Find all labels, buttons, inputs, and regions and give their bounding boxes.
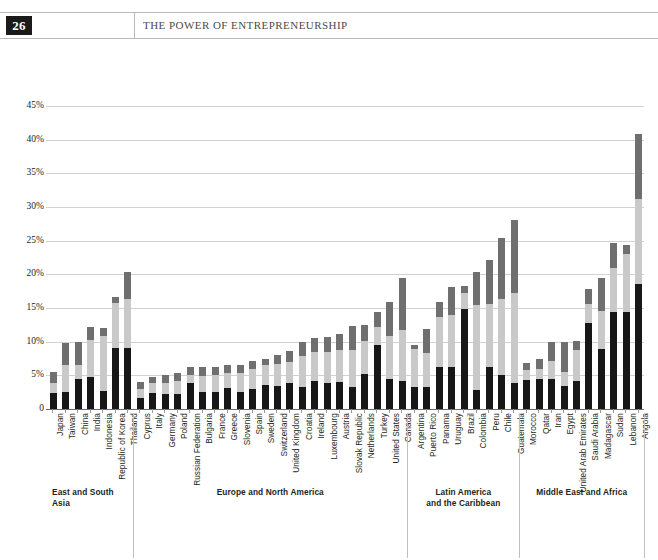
bar-segment: [149, 383, 156, 392]
bar-germany[interactable]: [162, 375, 169, 409]
bar-segment: [75, 342, 82, 365]
bar-segment: [436, 302, 443, 317]
bar-segment: [349, 350, 356, 387]
bar-indonesia[interactable]: [100, 328, 107, 409]
bar-argentina[interactable]: [411, 345, 418, 409]
bar-segment: [212, 392, 219, 409]
bar-brazil[interactable]: [461, 286, 468, 409]
x-axis-label: Saudi Arabia: [591, 413, 600, 461]
bar-italy[interactable]: [149, 377, 156, 409]
bar-segment: [62, 365, 69, 392]
bar-qatar[interactable]: [536, 359, 543, 410]
bar-segment: [473, 305, 480, 390]
bar-segment: [561, 342, 568, 372]
bar-taiwan[interactable]: [62, 343, 69, 409]
bar-peru[interactable]: [486, 260, 493, 409]
bar-segment: [174, 394, 181, 409]
bar-madagascar[interactable]: [598, 278, 605, 409]
bar-segment: [187, 367, 194, 374]
bar-poland[interactable]: [174, 373, 181, 409]
bar-angola[interactable]: [635, 134, 642, 409]
bar-segment: [162, 394, 169, 409]
x-axis-labels: JapanTaiwanChinaIndiaIndonesiaRepublic o…: [46, 413, 644, 523]
bar-uruguay[interactable]: [448, 287, 455, 409]
x-axis-label: Turkey: [380, 413, 389, 438]
bar-segment: [237, 373, 244, 391]
y-axis-tick-label: 45%: [2, 100, 44, 110]
bar-austria[interactable]: [336, 334, 343, 409]
bar-segment: [585, 323, 592, 409]
bar-segment: [498, 375, 505, 409]
bar-ireland[interactable]: [311, 338, 318, 409]
bar-france[interactable]: [212, 367, 219, 409]
bar-luxembourg[interactable]: [324, 337, 331, 409]
bar-chile[interactable]: [498, 238, 505, 409]
bar-segment: [50, 393, 57, 409]
bar-sweden[interactable]: [262, 359, 269, 410]
bar-thailand[interactable]: [124, 272, 131, 409]
bar-segment: [623, 245, 630, 254]
bar-slovenia[interactable]: [237, 365, 244, 409]
chart-figure: 05%10%15%20%25%30%35%40%45% JapanTaiwanC…: [0, 44, 658, 560]
bar-morocco[interactable]: [523, 363, 530, 409]
bar-egypt[interactable]: [561, 342, 568, 409]
bar-segment: [423, 353, 430, 387]
bar-united-arab-emirates[interactable]: [573, 341, 580, 409]
bar-puerto-rico[interactable]: [423, 329, 430, 409]
bar-panama[interactable]: [436, 302, 443, 409]
bar-segment: [361, 374, 368, 409]
bar-republic-of-korea[interactable]: [112, 297, 119, 409]
bar-bulgaria[interactable]: [199, 367, 206, 409]
bar-lebanon[interactable]: [623, 245, 630, 409]
x-axis-label: Guatemala: [517, 413, 526, 454]
bar-segment: [573, 341, 580, 350]
bar-segment: [75, 365, 82, 379]
bar-segment: [598, 349, 605, 409]
bar-segment: [199, 367, 206, 376]
bar-croatia[interactable]: [299, 342, 306, 409]
bar-canada[interactable]: [399, 278, 406, 409]
gridline: [46, 308, 644, 309]
bar-switzerland[interactable]: [274, 355, 281, 409]
bar-sudan[interactable]: [610, 243, 617, 409]
bar-slovak-republic[interactable]: [349, 326, 356, 409]
bar-united-states[interactable]: [386, 302, 393, 409]
bar-segment: [286, 362, 293, 384]
bar-segment: [336, 334, 343, 350]
bar-segment: [473, 272, 480, 306]
header-rule-top: [0, 12, 658, 13]
bar-segment: [536, 359, 543, 369]
bar-cyprus[interactable]: [137, 382, 144, 409]
bar-segment: [100, 391, 107, 409]
x-axis-label: Sweden: [267, 413, 276, 443]
bar-segment: [386, 379, 393, 409]
x-axis-label: Ireland: [317, 413, 326, 439]
bar-guatemala[interactable]: [511, 220, 518, 409]
bar-segment: [262, 385, 269, 409]
bar-russian-federation[interactable]: [187, 367, 194, 409]
bar-segment: [262, 365, 269, 385]
bar-india[interactable]: [87, 327, 94, 409]
x-axis-label: Qatar: [542, 413, 551, 434]
bar-colombia[interactable]: [473, 272, 480, 409]
x-axis-label: Brazil: [467, 413, 476, 434]
bar-netherlands[interactable]: [361, 325, 368, 409]
bar-segment: [299, 387, 306, 409]
bar-turkey[interactable]: [374, 312, 381, 409]
bar-united-kingdom[interactable]: [286, 351, 293, 409]
bar-segment: [399, 330, 406, 381]
bar-spain[interactable]: [249, 361, 256, 409]
bar-segment: [174, 373, 181, 381]
bar-segment: [610, 243, 617, 268]
bar-china[interactable]: [75, 342, 82, 409]
x-axis-label: Chile: [504, 413, 513, 432]
running-head-title: THE POWER OF ENTREPRENEURSHIP: [143, 19, 348, 31]
bar-japan[interactable]: [50, 372, 57, 409]
bar-segment: [112, 297, 119, 302]
bar-greece[interactable]: [224, 365, 231, 409]
bar-segment: [411, 349, 418, 387]
bar-segment: [548, 379, 555, 409]
bar-segment: [286, 351, 293, 362]
bar-iran[interactable]: [548, 342, 555, 409]
bar-saudi-arabia[interactable]: [585, 289, 592, 409]
